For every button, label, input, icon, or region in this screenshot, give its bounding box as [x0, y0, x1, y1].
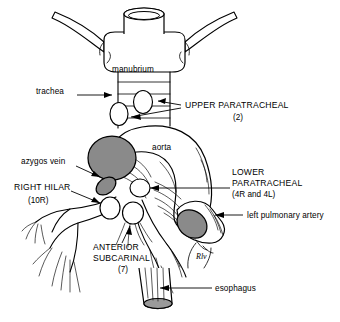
mediastinum-illustration: manubrium trachea UPPER PARATRACHEAL (2)…	[0, 0, 340, 322]
label-lower-paratracheal-2: PARATRACHEAL	[232, 178, 302, 188]
label-trachea: trachea	[36, 87, 64, 96]
trachea-top-ring	[124, 8, 164, 34]
clavicle-right-icon	[185, 12, 237, 55]
clavicle-left-icon	[52, 12, 104, 55]
label-lower-paratracheal-station: (4R and 4L)	[232, 190, 276, 199]
left-pulmonary-artery	[171, 201, 224, 253]
anatomical-diagram: manubrium trachea UPPER PARATRACHEAL (2)…	[0, 0, 340, 322]
label-upper-paratracheal: UPPER PARATRACHEAL	[185, 100, 289, 110]
label-azygos-vein: azygos vein	[21, 157, 66, 166]
label-aorta: aorta	[152, 143, 172, 152]
label-lower-paratracheal-1: LOWER	[232, 167, 265, 177]
label-anterior-subcarinal-station: (7)	[118, 265, 128, 274]
anterior-subcarinal-node	[123, 202, 144, 224]
upper-paratracheal-left-node	[134, 91, 153, 114]
label-anterior-subcarinal-2: SUBCARINAL	[93, 253, 150, 263]
label-esophagus: esophagus	[215, 284, 256, 293]
label-anterior-subcarinal-1: ANTERIOR	[93, 242, 139, 252]
upper-paratracheal-right-node	[110, 103, 128, 126]
right-hilar-node	[100, 197, 120, 219]
label-right-hilar-station: (10R)	[28, 196, 49, 205]
label-upper-paratracheal-station: (2)	[233, 113, 243, 122]
label-manubrium: manubrium	[112, 65, 154, 74]
lower-paratracheal-node	[130, 179, 150, 197]
label-left-pulmonary-artery: left pulmonary artery	[247, 211, 325, 220]
label-rlv-marker: Rlv	[195, 252, 207, 261]
label-right-hilar: RIGHT HILAR	[14, 182, 70, 192]
